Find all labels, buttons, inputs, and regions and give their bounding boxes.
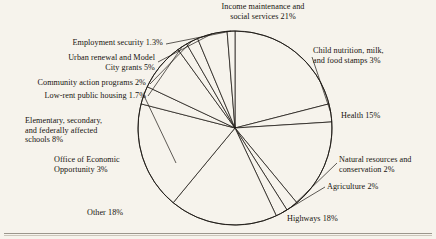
slice-label-child-nutrition: Child nutrition, milk, and food stamps 3… [313,46,435,65]
slice-label-highways: Highways 18% [287,214,387,224]
slice-label-community-action: Community action programs 2% [0,78,146,88]
slice-label-health: Health 15% [341,111,431,121]
slice-label-urban-renewal: Urban renewal and Model City grants 5% [16,53,155,72]
slice-label-agriculture: Agriculture 2% [327,182,423,192]
slice-label-employment-security: Employment security 1.3% [30,38,163,48]
footer-rule-secondary [4,235,432,236]
slice-label-schools: Elementary, secondary, and federally aff… [25,116,150,145]
footer-rule [4,233,432,234]
slice-label-low-rent-housing: Low-rent public housing 1.7% [4,91,146,101]
slice-label-other: Other 18% [87,208,167,218]
figure-canvas: Income maintenance and social services 2… [0,0,436,239]
slice-label-natural-resources: Natural resources and conservation 2% [339,155,436,174]
slice-label-office-economic-opportunity: Office of Economic Opportunity 3% [54,155,174,174]
slice-label-income-maintenance: Income maintenance and social services 2… [193,2,333,21]
